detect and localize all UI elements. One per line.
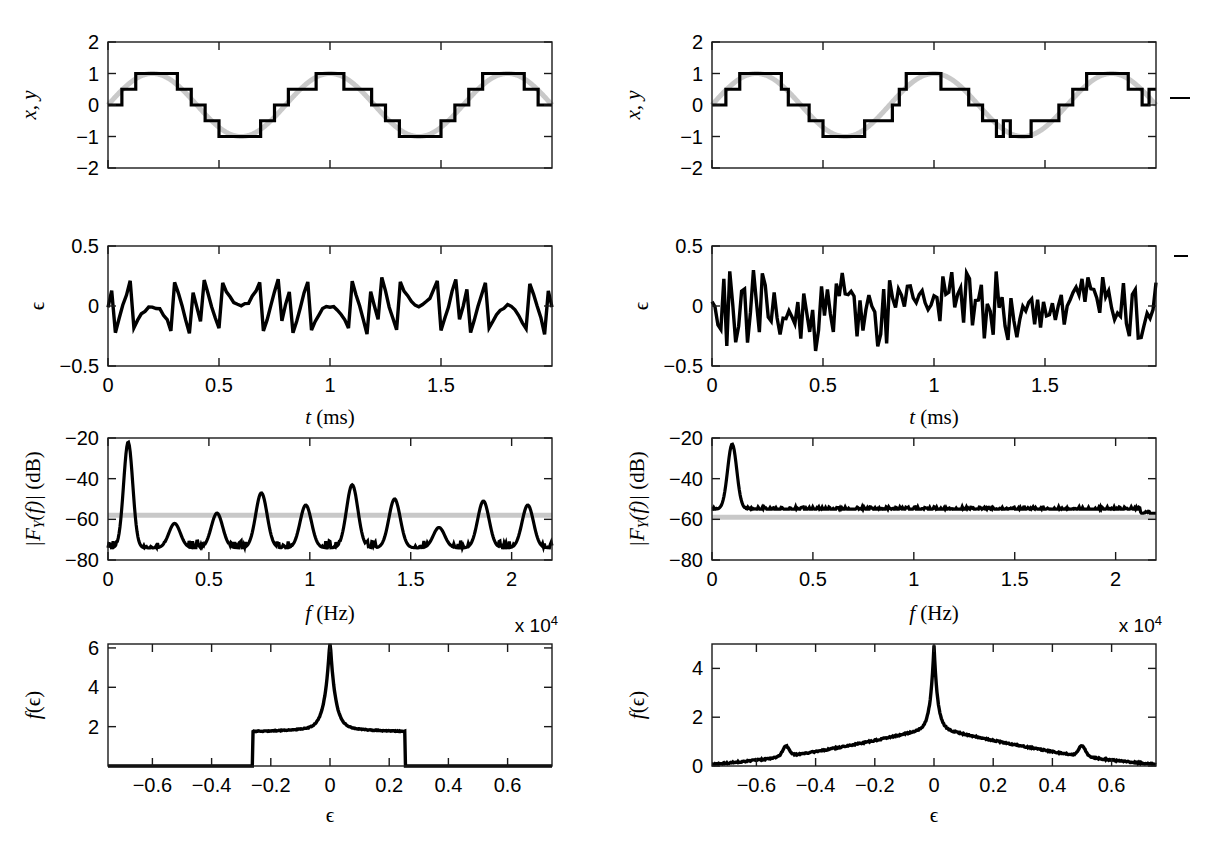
x-axis-label: ϵ: [326, 803, 335, 827]
panel-pdf-left: 246−0.6−0.4−0.200.20.40.6f(ϵ)ϵ: [0, 630, 600, 830]
x-tick-label: 1: [304, 568, 315, 590]
x-tick-label: 0: [706, 568, 717, 590]
y-tick-label: −20: [669, 427, 703, 449]
x-tick-label: 0.4: [1038, 774, 1066, 796]
x-tick-label: 0: [102, 568, 113, 590]
x-tick-label: 0.6: [494, 774, 522, 796]
y-tick-label: 2: [692, 706, 703, 728]
spectrum-trace: [108, 442, 552, 547]
x-tick-label: 1: [324, 374, 335, 396]
spectrum-trace: [712, 444, 1156, 513]
y-tick-label: −0.5: [60, 355, 99, 377]
panel-signal-left: −2−1012x, y: [0, 24, 600, 194]
y-tick-label: 0: [88, 94, 99, 116]
y-axis-label: x, y: [621, 90, 645, 121]
x-tick-label: 1: [908, 568, 919, 590]
x-tick-label: 0.2: [375, 774, 403, 796]
y-tick-label: −2: [680, 157, 703, 179]
y-axis-label: |FY(f)| (dB): [21, 451, 47, 547]
x-tick-label: 0.5: [205, 374, 233, 396]
y-tick-label: 2: [692, 31, 703, 53]
x-tick-label: 0: [102, 374, 113, 396]
y-tick-label: 1: [692, 63, 703, 85]
x-tick-label: 2: [506, 568, 517, 590]
x-tick-label: −0.2: [855, 774, 894, 796]
y-tick-label: 1: [88, 63, 99, 85]
input-sine-trace: [712, 74, 1156, 137]
x-tick-label: 0.5: [195, 568, 223, 590]
y-tick-label: 0: [88, 295, 99, 317]
panel-spectrum-right: −80−60−40−2000.511.52|FY(f)| (dB)f (Hz)x…: [604, 424, 1204, 624]
y-tick-label: −20: [65, 427, 99, 449]
y-axis-label: f(ϵ): [21, 691, 45, 719]
y-tick-label: −40: [669, 468, 703, 490]
y-tick-label: 0.5: [675, 235, 703, 257]
figure-root: −2−1012x, y −2−1012x, y −0.500.500.511.5…: [0, 0, 1215, 844]
panel-error-left: −0.500.500.511.5ϵt (ms): [0, 232, 600, 412]
x-tick-label: 2: [1110, 568, 1121, 590]
pdf-trace: [712, 645, 1156, 764]
y-axis-label: f(ϵ): [625, 691, 649, 719]
x-tick-label: 0: [706, 374, 717, 396]
x-tick-label: 0.5: [809, 374, 837, 396]
x-tick-label: −0.6: [737, 774, 776, 796]
x-tick-label: 0: [928, 774, 939, 796]
y-axis-label: x, y: [17, 90, 41, 121]
x-tick-label: −0.2: [251, 774, 290, 796]
x-axis-label: f (Hz): [305, 601, 355, 625]
y-tick-label: 0: [692, 755, 703, 777]
y-tick-label: −40: [65, 468, 99, 490]
x-tick-label: 1.5: [1001, 568, 1029, 590]
y-tick-label: 2: [88, 31, 99, 53]
y-axis-label: ϵ: [25, 301, 49, 310]
error-trace: [712, 270, 1156, 351]
y-tick-label: 6: [88, 637, 99, 659]
y-tick-label: −80: [669, 549, 703, 571]
x-tick-label: 1.5: [427, 374, 455, 396]
y-tick-label: −60: [669, 508, 703, 530]
x-tick-label: 0: [324, 774, 335, 796]
y-tick-label: 0: [692, 94, 703, 116]
y-tick-label: −60: [65, 508, 99, 530]
x-tick-label: −0.4: [796, 774, 835, 796]
y-tick-label: −0.5: [664, 355, 703, 377]
x-tick-label: −0.4: [192, 774, 231, 796]
y-tick-label: −2: [76, 157, 99, 179]
panel-error-right: −0.500.500.511.5ϵt (ms): [604, 232, 1204, 412]
panel-spectrum-left: −80−60−40−2000.511.52|FY(f)| (dB)f (Hz)x…: [0, 424, 600, 624]
x-tick-label: 1: [928, 374, 939, 396]
y-tick-label: 0.5: [71, 235, 99, 257]
x-tick-label: 1.5: [1031, 374, 1059, 396]
panel-pdf-right: 024−0.6−0.4−0.200.20.40.6f(ϵ)ϵ: [604, 630, 1204, 830]
y-tick-label: 0: [692, 295, 703, 317]
y-tick-label: 4: [88, 676, 99, 698]
x-tick-label: 0.5: [799, 568, 827, 590]
y-tick-label: 2: [88, 716, 99, 738]
pdf-trace: [108, 644, 552, 766]
x-tick-label: 1.5: [397, 568, 425, 590]
x-axis-label: ϵ: [930, 803, 939, 827]
x-tick-label: −0.6: [133, 774, 172, 796]
x-tick-label: 0.6: [1098, 774, 1126, 796]
y-tick-label: 4: [692, 657, 703, 679]
error-trace: [108, 277, 552, 334]
x-tick-label: 0.4: [434, 774, 462, 796]
y-tick-label: −1: [76, 126, 99, 148]
x-tick-label: 0.2: [979, 774, 1007, 796]
y-axis-label: ϵ: [629, 301, 653, 310]
y-axis-label: |FY(f)| (dB): [625, 451, 651, 547]
x-axis-label: f (Hz): [909, 601, 959, 625]
input-sine-trace: [108, 74, 552, 137]
panel-signal-right: −2−1012x, y: [604, 24, 1204, 194]
y-tick-label: −1: [680, 126, 703, 148]
y-tick-label: −80: [65, 549, 99, 571]
